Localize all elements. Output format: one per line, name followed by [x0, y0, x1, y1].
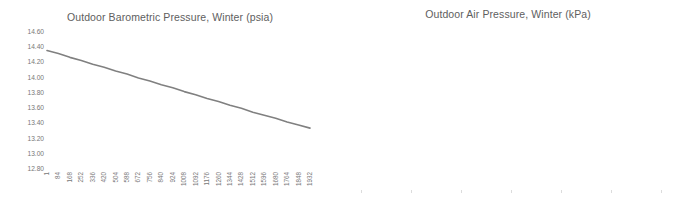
x-axis-tick: [411, 190, 412, 193]
x-axis-tick: [461, 190, 462, 193]
x-tick-label: 1428: [238, 172, 244, 186]
x-tick-label: 420: [101, 172, 107, 183]
x-axis-tick: [611, 190, 612, 193]
y-tick-label: 13.60: [27, 105, 44, 112]
y-tick-label: 14.60: [27, 29, 44, 36]
x-tick-label: 1092: [193, 172, 199, 186]
x-axis-tick: [361, 190, 362, 193]
x-tick-label: 1260: [216, 172, 222, 186]
line-series-left: [47, 33, 310, 170]
plot-area-left: [47, 33, 310, 170]
x-tick-label: 588: [124, 172, 130, 183]
x-tick-label: 84: [55, 172, 61, 179]
x-axis-tick: [561, 190, 562, 193]
x-axis-tick: [661, 190, 662, 193]
y-tick-label: 13.80: [27, 90, 44, 97]
chart-title-left: Outdoor Barometric Pressure, Winter (psi…: [0, 11, 340, 23]
x-tick-label: 1008: [181, 172, 187, 186]
x-tick-label: 672: [135, 172, 141, 183]
x-tick-label: 336: [90, 172, 96, 183]
x-tick-label: 1848: [296, 172, 302, 186]
charts-page: Outdoor Barometric Pressure, Winter (psi…: [0, 0, 676, 218]
x-tick-label: 1932: [307, 172, 313, 186]
x-tick-label: 1596: [261, 172, 267, 186]
x-axis-tick: [511, 190, 512, 193]
chart-barometric-pressure-psia: Outdoor Barometric Pressure, Winter (psi…: [0, 0, 340, 218]
x-tick-label: 756: [147, 172, 153, 183]
x-tick-label: 924: [170, 172, 176, 183]
y-tick-label: 14.00: [27, 75, 44, 82]
x-tick-label: 252: [78, 172, 84, 183]
pressure-line-psia: [47, 51, 310, 129]
x-tick-label: 1344: [227, 172, 233, 186]
x-tick-label: 1680: [273, 172, 279, 186]
x-tick-label: 1764: [284, 172, 290, 186]
y-tick-label: 14.40: [27, 44, 44, 51]
y-tick-label: 12.80: [27, 166, 44, 173]
x-tick-label: 1512: [250, 172, 256, 186]
x-axis-labels-left: 1841682523364205045886727568409241008109…: [47, 172, 310, 218]
y-tick-label: 13.00: [27, 151, 44, 158]
x-tick-label: 504: [113, 172, 119, 183]
x-tick-label: 1176: [204, 172, 210, 186]
y-tick-label: 14.20: [27, 59, 44, 66]
chart-title-right: Outdoor Air Pressure, Winter (kPa): [340, 8, 676, 20]
y-tick-label: 13.20: [27, 136, 44, 143]
y-axis-labels-left: 14.6014.4014.2014.0013.8013.6013.4013.20…: [8, 29, 44, 174]
x-tick-label: 168: [67, 172, 73, 183]
chart-air-pressure-kpa: Outdoor Air Pressure, Winter (kPa) 10090…: [340, 0, 676, 218]
x-tick-label: 1: [44, 172, 50, 176]
y-tick-label: 13.40: [27, 120, 44, 127]
x-tick-label: 840: [158, 172, 164, 183]
